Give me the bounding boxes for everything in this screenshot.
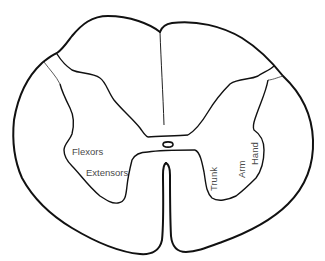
label-flexors: Flexors (72, 147, 103, 157)
outer-boundary-right (160, 22, 313, 252)
gray-commissure-top (148, 135, 188, 137)
posterior-median-septum (160, 32, 164, 125)
label-extensors: Extensors (86, 168, 128, 178)
central-canal (163, 142, 173, 147)
left-gray-matter-boundary (57, 54, 148, 137)
left-dorsal-root-line (44, 62, 60, 84)
label-arm: Arm (237, 161, 247, 178)
left-ventral-horn (60, 84, 148, 203)
right-dorsal-root-line (268, 76, 283, 80)
label-hand: Hand (250, 142, 260, 165)
gray-commissure-bottom (148, 150, 195, 152)
spinal-cord-outline (0, 0, 325, 261)
outer-boundary-left (13, 16, 166, 254)
spinal-cord-diagram: Flexors Extensors Trunk Arm Hand (0, 0, 325, 261)
label-trunk: Trunk (209, 167, 219, 191)
right-ventral-horn (195, 80, 268, 200)
